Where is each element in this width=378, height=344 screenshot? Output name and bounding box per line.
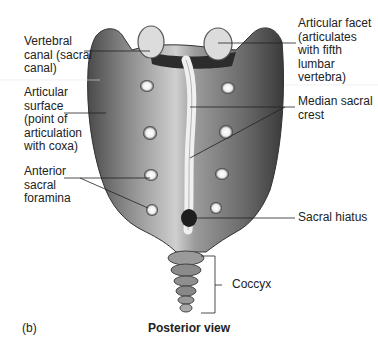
- foramen: [143, 126, 157, 140]
- foramen: [219, 125, 233, 139]
- label-coccyx: Coccyx: [232, 278, 271, 292]
- foramen: [215, 168, 229, 180]
- foramen: [146, 204, 158, 216]
- articular-facet-left: [138, 26, 164, 58]
- label-sacral-hiatus: Sacral hiatus: [298, 211, 367, 225]
- foramen: [140, 80, 154, 92]
- foramen: [144, 169, 158, 181]
- label-vertebral-canal: Vertebral canal (sacral canal): [24, 35, 92, 76]
- label-anterior-sacral-foramina: Anterior sacral foramina: [24, 165, 71, 206]
- label-articular-surface: Articular surface (point of articulation…: [24, 86, 82, 154]
- foramen: [221, 82, 235, 94]
- label-articular-facet: Articular facet (articulates with fifth …: [298, 17, 371, 85]
- coccyx-bone: [168, 251, 204, 312]
- label-median-sacral-crest: Median sacral crest: [298, 95, 373, 122]
- foramen: [210, 202, 222, 214]
- panel-label: (b): [22, 321, 37, 335]
- articular-facet-right: [204, 28, 232, 60]
- view-title: Posterior view: [148, 321, 230, 335]
